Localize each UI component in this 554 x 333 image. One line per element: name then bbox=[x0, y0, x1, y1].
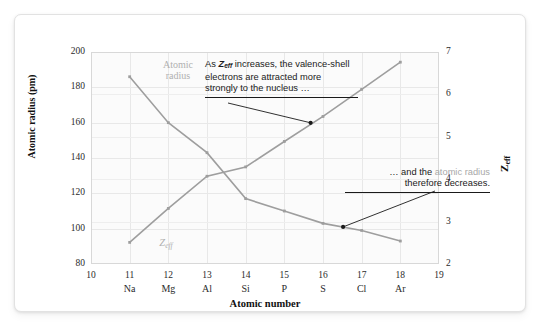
y-tick-right-3: 3 bbox=[446, 216, 470, 226]
chart-card: 8010012014016018020023456710111213141516… bbox=[14, 14, 526, 312]
annotation-radius-line2: therefore decreases. bbox=[345, 178, 490, 189]
anno1-pre: As bbox=[205, 59, 218, 69]
anno1-zeff-sub: eff bbox=[224, 62, 232, 69]
x-element-Na: Na bbox=[115, 283, 145, 294]
x-axis-title: Atomic number bbox=[91, 298, 439, 309]
annotation-zeff-line1: As Zeff increases, the valence-shell bbox=[205, 59, 358, 72]
y-tick-left-120: 120 bbox=[59, 187, 85, 197]
zeff-subscript: eff bbox=[503, 156, 512, 165]
y-tick-left-80: 80 bbox=[59, 258, 85, 268]
x-element-Mg: Mg bbox=[153, 283, 183, 294]
y-tick-right-5: 5 bbox=[446, 131, 470, 141]
anno2-pre: … and the bbox=[389, 167, 434, 177]
gridline-horizontal bbox=[92, 123, 438, 124]
x-tick-11: 11 bbox=[117, 270, 143, 280]
y-tick-left-180: 180 bbox=[59, 81, 85, 91]
annotation-zeff: As Zeff increases, the valence-shell ele… bbox=[205, 59, 358, 98]
y-tick-right-7: 7 bbox=[446, 46, 470, 56]
series-label-line1: Atomic bbox=[163, 59, 193, 70]
gridline-horizontal-right bbox=[92, 137, 438, 138]
x-tick-15: 15 bbox=[271, 270, 297, 280]
annotation-radius-rule bbox=[345, 192, 490, 193]
x-element-Al: Al bbox=[192, 283, 222, 294]
gridline-horizontal bbox=[92, 158, 438, 159]
x-tick-18: 18 bbox=[387, 270, 413, 280]
x-tick-12: 12 bbox=[155, 270, 181, 280]
y-axis-right-title: Zeff bbox=[498, 144, 512, 184]
y-tick-left-160: 160 bbox=[59, 117, 85, 127]
x-element-Ar: Ar bbox=[385, 283, 415, 294]
gridline-horizontal-right bbox=[92, 222, 438, 223]
series-label-line2: radius bbox=[166, 70, 190, 81]
x-tick-10: 10 bbox=[78, 270, 104, 280]
anno2-gray-term: atomic radius bbox=[435, 167, 490, 177]
gridline-horizontal bbox=[92, 229, 438, 230]
y-tick-left-200: 200 bbox=[59, 46, 85, 56]
annotation-radius-line1: … and the atomic radius bbox=[345, 167, 490, 178]
x-element-P: P bbox=[269, 283, 299, 294]
annotation-zeff-line2: electrons are attracted more bbox=[205, 72, 358, 83]
gridline-horizontal bbox=[92, 193, 438, 194]
annotation-radius: … and the atomic radius therefore decrea… bbox=[345, 167, 490, 193]
x-element-Cl: Cl bbox=[347, 283, 377, 294]
x-tick-14: 14 bbox=[233, 270, 259, 280]
x-element-Si: Si bbox=[231, 283, 261, 294]
x-tick-16: 16 bbox=[310, 270, 336, 280]
y-tick-left-100: 100 bbox=[59, 223, 85, 233]
y-tick-right-2: 2 bbox=[446, 258, 470, 268]
series-label-zeff-sub: eff bbox=[165, 241, 173, 250]
series-label-zeff: Zeff bbox=[149, 237, 183, 251]
series-label-atomic-radius: Atomic radius bbox=[147, 59, 209, 81]
annotation-zeff-line3: strongly to the nucleus … bbox=[205, 83, 358, 94]
y-tick-left-140: 140 bbox=[59, 152, 85, 162]
y-tick-right-6: 6 bbox=[446, 88, 470, 98]
x-element-S: S bbox=[308, 283, 338, 294]
y-axis-left-title: Atomic radius (pm) bbox=[26, 57, 37, 177]
annotation-zeff-rule bbox=[205, 97, 358, 98]
x-tick-19: 19 bbox=[426, 270, 452, 280]
chart-page: 8010012014016018020023456710111213141516… bbox=[0, 0, 554, 333]
x-tick-13: 13 bbox=[194, 270, 220, 280]
anno1-post: increases, the valence-shell bbox=[232, 59, 349, 69]
x-tick-17: 17 bbox=[349, 270, 375, 280]
